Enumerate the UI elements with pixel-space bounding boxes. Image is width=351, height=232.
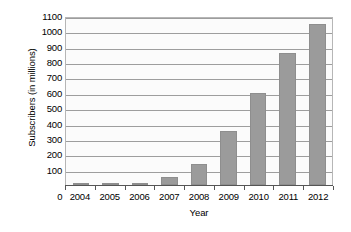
x-tick-label-2012: 2012 bbox=[298, 191, 338, 203]
y-tick-label: 1100 bbox=[22, 12, 62, 22]
x-tick bbox=[95, 186, 96, 190]
x-tick bbox=[125, 186, 126, 190]
y-tick-label: 900 bbox=[22, 43, 62, 53]
x-tick bbox=[214, 186, 215, 190]
y-tick-label: 100 bbox=[22, 166, 62, 176]
bar-2009[interactable] bbox=[220, 131, 237, 185]
bar-slot bbox=[273, 18, 303, 185]
x-axis-tick-labels: 200420052006200720082009201020112012 bbox=[65, 191, 333, 204]
x-tick bbox=[333, 186, 334, 190]
bar-2007[interactable] bbox=[161, 177, 178, 185]
y-tick-label: 500 bbox=[22, 104, 62, 114]
y-tick-label: 200 bbox=[22, 150, 62, 160]
bars-layer bbox=[66, 18, 332, 185]
bar-slot bbox=[96, 18, 126, 185]
bar-2008[interactable] bbox=[191, 164, 208, 186]
x-tick bbox=[154, 186, 155, 190]
x-axis-title: Year bbox=[65, 207, 333, 218]
y-tick-label: 700 bbox=[22, 73, 62, 83]
bar-slot bbox=[303, 18, 333, 185]
bar-2011[interactable] bbox=[279, 53, 296, 185]
x-tick bbox=[65, 186, 66, 190]
y-tick-label: 600 bbox=[22, 89, 62, 99]
bar-slot bbox=[155, 18, 185, 185]
plot-area bbox=[65, 17, 333, 186]
y-tick-label: 400 bbox=[22, 120, 62, 130]
x-axis-ticks bbox=[65, 186, 333, 190]
x-tick bbox=[273, 186, 274, 190]
x-tick bbox=[244, 186, 245, 190]
bar-slot bbox=[66, 18, 96, 185]
y-tick-label: 800 bbox=[22, 58, 62, 68]
bar-2010[interactable] bbox=[250, 93, 267, 185]
x-tick bbox=[184, 186, 185, 190]
x-axis-origin-label: 0 bbox=[53, 191, 67, 203]
bar-slot bbox=[214, 18, 244, 185]
bar-slot bbox=[184, 18, 214, 185]
bar-chart: Subscribers (in millions) 11001000900800… bbox=[0, 0, 351, 232]
y-axis-tick-labels: 11001000900800700600500400300200100 bbox=[22, 17, 62, 186]
bar-slot bbox=[243, 18, 273, 185]
y-tick-label: 1000 bbox=[22, 27, 62, 37]
y-tick-label: 300 bbox=[22, 135, 62, 145]
x-tick bbox=[303, 186, 304, 190]
bar-slot bbox=[125, 18, 155, 185]
bar-2012[interactable] bbox=[309, 24, 326, 185]
